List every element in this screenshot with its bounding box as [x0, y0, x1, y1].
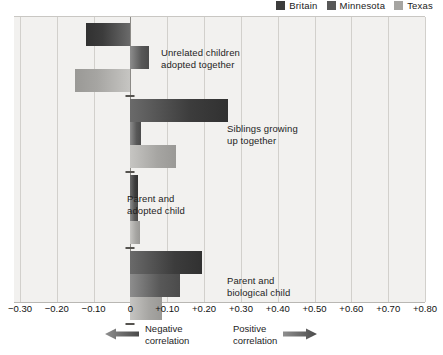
axis-direction-key: Negative correlation Positive correlatio… [0, 322, 443, 355]
positive-correlation-label: Positive correlation [233, 323, 277, 346]
x-tick-label: +0.40 [266, 303, 290, 314]
x-tick-label: +0.20 [192, 303, 216, 314]
x-tick-label: +0.10 [155, 303, 179, 314]
bar-minnesota-group-4 [130, 274, 180, 297]
legend-entry-britain: Britain [276, 1, 317, 11]
arrow-left-icon [105, 326, 139, 344]
correlation-bar-chart: BritainMinnesotaTexas Unrelated children… [0, 0, 443, 355]
zero-tick-mark [126, 171, 135, 173]
legend-label: Britain [289, 1, 317, 11]
x-axis: −0.30−0.20−0.100+0.10+0.20+0.30+0.40+0.5… [0, 303, 443, 319]
x-tick-label: −0.20 [45, 303, 69, 314]
chart-legend: BritainMinnesotaTexas [276, 1, 433, 11]
x-tick-label: −0.10 [82, 303, 106, 314]
grid-line [241, 17, 242, 302]
arrow-right-icon [283, 326, 317, 344]
bar-texas-group-1 [75, 69, 130, 92]
bar-minnesota-group-1 [130, 46, 148, 69]
x-tick-label: +0.50 [303, 303, 327, 314]
bar-texas-group-2 [130, 145, 176, 168]
group-label-4: Parent and biological child [227, 275, 290, 298]
legend-label: Texas [407, 1, 433, 11]
group-label-3: Parent and adopted child [127, 193, 185, 216]
x-tick-label: +0.80 [413, 303, 437, 314]
legend-entry-minnesota: Minnesota [327, 1, 386, 11]
square-swatch-icon [394, 1, 403, 10]
grid-line [278, 17, 279, 302]
bar-minnesota-group-2 [130, 122, 141, 145]
negative-correlation-label: Negative correlation [145, 323, 189, 346]
grid-line [94, 17, 95, 302]
legend-entry-texas: Texas [394, 1, 433, 11]
x-tick-label: +0.70 [376, 303, 400, 314]
grid-line [315, 17, 316, 302]
bar-britain-group-1 [86, 23, 130, 46]
bar-texas-group-3 [130, 221, 139, 244]
grid-line [20, 17, 21, 302]
bar-britain-group-2 [130, 99, 228, 122]
grid-line [388, 17, 389, 302]
group-label-2: Siblings growing up together [227, 123, 298, 146]
grid-line [351, 17, 352, 302]
grid-line [425, 17, 426, 302]
plot-area: Unrelated children adopted togetherSibli… [14, 16, 425, 303]
zero-tick-mark [126, 95, 135, 97]
legend-label: Minnesota [340, 1, 386, 11]
x-tick-label: −0.30 [8, 303, 32, 314]
grid-line [57, 17, 58, 302]
group-label-1: Unrelated children adopted together [161, 47, 240, 70]
square-swatch-icon [327, 1, 336, 10]
x-tick-label: +0.30 [229, 303, 253, 314]
square-swatch-icon [276, 1, 285, 10]
negative-correlation-key: Negative correlation [105, 323, 189, 346]
x-tick-label: 0 [128, 303, 133, 314]
positive-correlation-key: Positive correlation [233, 323, 317, 346]
zero-tick-mark [126, 247, 135, 249]
bar-britain-group-4 [130, 251, 202, 274]
x-tick-label: +0.60 [339, 303, 363, 314]
